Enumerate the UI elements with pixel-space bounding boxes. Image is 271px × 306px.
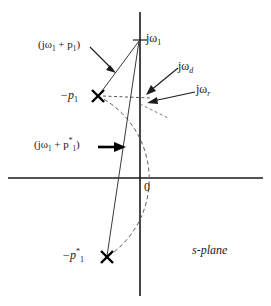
annotation-arrow-jwd-icon — [146, 68, 178, 95]
label-jw-d: jωd — [178, 60, 193, 75]
label-vector-jw1-plus-p1: (jω1 + p1) — [38, 39, 80, 53]
pole-projection-dashed-line — [103, 96, 150, 98]
annotation-arrow-vector2-icon — [98, 142, 126, 152]
vector-jw1-plus-p1 — [99, 41, 139, 95]
label-s-plane: s-plane — [192, 244, 227, 256]
label-vector-jw1-plus-p1-conj: (jω1 + p*1) — [34, 138, 80, 153]
label-jw-r: jωr — [196, 83, 210, 98]
label-pole-p1: −p1 — [60, 89, 78, 104]
vector-jw1-plus-p1-conj — [107, 41, 139, 256]
label-pole-p1-conj: −p*1 — [62, 248, 84, 264]
label-jw1: jω1 — [146, 32, 161, 47]
resonance-arc — [98, 96, 149, 257]
jwr-projection-dashed-line — [140, 104, 168, 118]
label-origin: 0 — [144, 181, 150, 193]
pole-marker-p1 — [92, 90, 104, 102]
annotation-arrow-jwr-icon — [147, 92, 195, 104]
annotation-arrow-vector1-icon — [90, 47, 116, 73]
